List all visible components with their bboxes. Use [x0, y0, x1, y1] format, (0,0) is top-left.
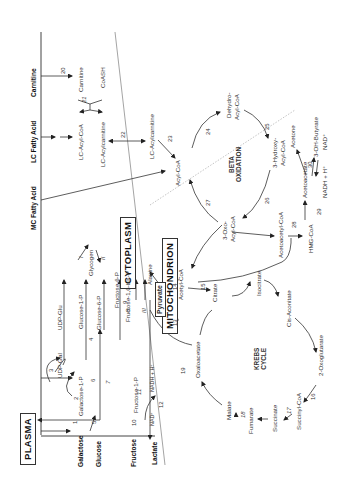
- reaction-10: 10: [131, 419, 137, 426]
- fructose-16-bisp: Fructose-1,6-bis-P: [125, 271, 131, 322]
- succinate: Succinate: [272, 405, 278, 432]
- reaction-16: 16: [310, 393, 316, 400]
- reaction-20: 20: [60, 67, 66, 74]
- hmg-coa: HMG-CoA: [308, 224, 314, 253]
- hydroxy-acyl-coa-2: Acyl-CoA: [280, 140, 286, 166]
- roman-ii: II: [100, 257, 106, 260]
- reaction-29: 29: [316, 208, 322, 215]
- dehydro-acyl-coa-2: Acyl-CoA: [234, 94, 240, 120]
- reaction-19: 19: [180, 367, 186, 374]
- oxaloacetate: Oxaloacetate: [195, 342, 201, 378]
- succinyl-coa: Succinyl-CoA: [296, 393, 302, 430]
- reaction-6: 6: [90, 379, 96, 382]
- citrate: Citrate: [212, 284, 218, 302]
- mc-fatty-acid: MC Fatty Acid: [31, 186, 38, 230]
- reaction-12: 12: [158, 401, 164, 408]
- reaction-9: 9: [122, 301, 128, 304]
- dehydro-acyl-coa-1: Dehydro-: [226, 93, 232, 118]
- coash: CoASH: [100, 67, 106, 88]
- lactate: Lactate: [152, 442, 159, 465]
- isocitrate: Isocitrate: [256, 271, 262, 296]
- fumarate: Fumarate: [248, 408, 254, 434]
- reaction-28: 28: [291, 221, 297, 228]
- galactose: Galactose: [78, 435, 85, 467]
- reaction-26: 26: [264, 197, 270, 204]
- udp-gal: UDP-Gal: [57, 353, 63, 378]
- roman-i: I: [78, 256, 84, 258]
- lc-acylcarnitine-mit: LC-Acylcarnitine: [149, 114, 155, 159]
- udp-glu: UDP-Glu: [57, 305, 63, 330]
- acetone: Acetone: [290, 125, 296, 148]
- nadh-h-2: NADH + H⁺: [322, 166, 328, 198]
- reaction-5: 5: [91, 421, 97, 424]
- acetoacetyl-coa: Acetoacetyl-CoA: [278, 212, 284, 258]
- reaction-30: 30: [307, 161, 313, 168]
- metabolic-pathway-diagram: PLASMA CYTOPLASM MITOCHONDRION Carnitine…: [0, 0, 350, 503]
- glucose-6-p: Glucose-6-P: [96, 296, 102, 330]
- reaction-22: 22: [120, 131, 126, 138]
- acetyl-coa: Acetyl-CoA: [178, 269, 184, 300]
- acyl-coa: Acyl-CoA: [175, 160, 181, 186]
- glycogen: Glycogen: [88, 250, 94, 276]
- oxoglutarate: 2-Oxoglutarate: [318, 335, 324, 376]
- fructose: Fructose: [131, 439, 138, 467]
- carnitine-cyt: Carnitine: [78, 67, 84, 92]
- reaction-17: 17: [286, 407, 292, 414]
- reaction-27: 27: [205, 199, 211, 206]
- reaction-23: 23: [167, 135, 173, 142]
- reaction-2: 2: [73, 397, 79, 400]
- plasma-label: PLASMA: [20, 413, 36, 465]
- cis-aconitate: Cis-Aconitate: [286, 290, 292, 327]
- nad-2: NAD⁺: [322, 134, 328, 150]
- krebs-cycle-label: KREBSCYCLE: [253, 348, 268, 370]
- lc-acyl-coa: LC-Acyl-CoA: [78, 124, 84, 160]
- oxo-acyl-coa-2: Acyl-CoA: [230, 216, 236, 242]
- roman-iii: III: [141, 308, 147, 313]
- oh-butyrate: 3-OH-Butyrate: [313, 117, 319, 157]
- lc-fatty-acid: LC Fatty Acid: [31, 121, 38, 163]
- fructose-1-p: Fructose-1-P: [133, 377, 139, 413]
- reaction-24: 24: [205, 128, 211, 135]
- reaction-15: 15: [200, 283, 206, 290]
- hydroxy-acyl-coa-1: 3-Hydroxy-: [272, 138, 278, 168]
- reaction-7: 7: [105, 381, 111, 384]
- carnitine-plasma: Carnitine: [31, 68, 38, 97]
- fructose-6-p: Fructose-6-P: [114, 272, 120, 308]
- reaction-1: 1: [72, 421, 78, 424]
- oxo-acyl-coa-1: 3-Oxo-: [222, 221, 228, 240]
- nadh-h-1: NADH + H⁺: [150, 364, 155, 392]
- reaction-11: 11: [136, 389, 142, 395]
- pyruvate-box: Pyruvate: [155, 282, 166, 317]
- reaction-14: 14: [172, 283, 178, 290]
- reaction-25: 25: [264, 123, 270, 130]
- glucose: Glucose: [96, 441, 103, 467]
- reaction-3: 3: [48, 369, 54, 372]
- nad-1: NAD⁺: [150, 412, 155, 426]
- malate: Malate: [226, 401, 232, 420]
- glucose-1-p: Glucose-1-P: [78, 295, 84, 329]
- reaction-13: 13: [172, 319, 178, 326]
- reaction-8: 8: [125, 309, 131, 312]
- reaction-21: 21: [81, 96, 87, 103]
- reaction-4: 4: [88, 338, 94, 341]
- beta-oxidation-label: BETAOXIDATION: [228, 147, 243, 182]
- reaction-18: 18: [240, 411, 246, 418]
- alanine: Alanine: [147, 264, 153, 285]
- lc-acylcarnitine-cyt: LC-Acylcarnitine: [100, 122, 106, 167]
